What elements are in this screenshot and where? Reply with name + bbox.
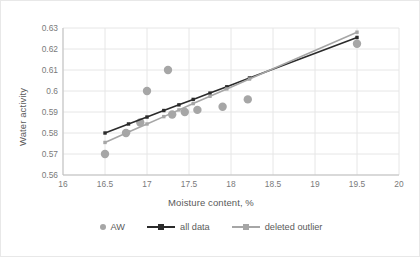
scatter-point bbox=[164, 66, 172, 74]
series-marker bbox=[192, 102, 195, 105]
legend-item-deleted-outlier[interactable]: deleted outlier bbox=[232, 222, 323, 232]
x-tick-label: 16.5 bbox=[87, 179, 123, 189]
legend-line-icon bbox=[147, 226, 175, 228]
scatter-point bbox=[218, 103, 226, 111]
legend-square-icon bbox=[243, 224, 249, 230]
legend-dot-icon bbox=[100, 224, 106, 230]
scatter-point bbox=[353, 40, 361, 48]
y-tick-label: 0.63 bbox=[25, 23, 58, 33]
y-tick-label: 0.57 bbox=[25, 149, 58, 159]
series-marker bbox=[355, 31, 358, 34]
series-marker bbox=[208, 91, 211, 94]
x-tick-label: 18.5 bbox=[255, 179, 291, 189]
x-tick-label: 19 bbox=[297, 179, 333, 189]
series-marker bbox=[127, 122, 130, 125]
legend-item-all-data[interactable]: all data bbox=[147, 222, 210, 232]
series-marker bbox=[225, 87, 228, 90]
series-marker bbox=[145, 122, 148, 125]
y-tick-label: 0.56 bbox=[25, 170, 58, 180]
series-marker bbox=[177, 103, 180, 106]
series-marker bbox=[177, 108, 180, 111]
y-tick-label: 0.58 bbox=[25, 128, 58, 138]
x-tick-label: 18 bbox=[213, 179, 249, 189]
scatter-point bbox=[143, 87, 151, 95]
series-marker bbox=[103, 141, 106, 144]
chart-plot-area bbox=[1, 1, 420, 257]
scatter-point bbox=[193, 106, 201, 114]
legend-label: AW bbox=[111, 222, 125, 232]
legend-line-icon bbox=[232, 226, 260, 228]
x-tick-label: 16 bbox=[45, 179, 81, 189]
series-marker bbox=[248, 77, 251, 80]
legend-label: deleted outlier bbox=[265, 222, 323, 232]
scatter-point bbox=[101, 150, 109, 158]
y-tick-label: 0.62 bbox=[25, 44, 58, 54]
y-tick-label: 0.61 bbox=[25, 65, 58, 75]
legend-label: all data bbox=[180, 222, 210, 232]
chart-container: Moisture content, % Water activity 1616.… bbox=[0, 0, 420, 257]
series-marker bbox=[192, 98, 195, 101]
x-axis-title: Moisture content, % bbox=[1, 197, 420, 208]
legend-square-icon bbox=[158, 224, 164, 230]
x-tick-label: 17 bbox=[129, 179, 165, 189]
legend-item-AW[interactable]: AW bbox=[100, 222, 125, 232]
y-tick-label: 0.6 bbox=[25, 86, 58, 96]
series-marker bbox=[355, 36, 358, 39]
x-tick-label: 19.5 bbox=[339, 179, 375, 189]
series-marker bbox=[103, 131, 106, 134]
x-tick-label: 20 bbox=[381, 179, 417, 189]
series-marker bbox=[162, 109, 165, 112]
series-marker bbox=[145, 115, 148, 118]
scatter-point bbox=[244, 95, 252, 103]
series-marker bbox=[208, 95, 211, 98]
chart-legend: AWall datadeleted outlier bbox=[1, 222, 420, 232]
y-tick-label: 0.59 bbox=[25, 107, 58, 117]
series-marker bbox=[127, 130, 130, 133]
series-marker bbox=[162, 115, 165, 118]
x-tick-label: 17.5 bbox=[171, 179, 207, 189]
